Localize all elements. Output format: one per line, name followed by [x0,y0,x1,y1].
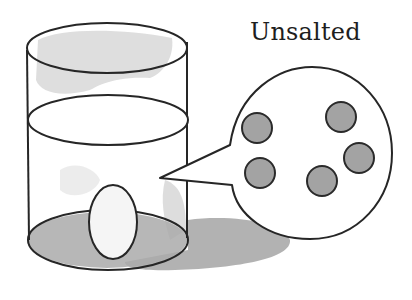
glass-wash-top [36,31,172,94]
water-molecule [307,166,337,196]
diagram-stage: Unsalted [0,0,412,300]
egg [89,185,137,259]
diagram-title: Unsalted [250,18,361,46]
water-molecule [245,158,275,188]
water-surface [28,95,188,145]
water-molecule [242,113,272,143]
glass-left-wall [27,50,29,240]
water-molecule [344,143,374,173]
water-molecule [326,102,356,132]
glass-wash-body [60,165,100,195]
